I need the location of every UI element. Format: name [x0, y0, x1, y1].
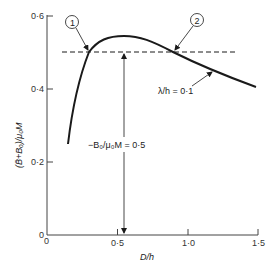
x-tick-label-1.5: 1·5 — [252, 238, 265, 248]
x-tick-label-0.5: 0·5 — [111, 238, 124, 248]
y-axis-title: (B̄+Bₒ)/μ₀M — [14, 122, 24, 168]
circle-2-text: 2 — [195, 16, 200, 26]
chart: 0·6 0·4 0·2 0 0 0·5 1·0 1·5 D/h (B̄+Bₒ)/… — [0, 0, 273, 273]
y-tick-label-0.4: 0·4 — [31, 84, 44, 94]
circled-label-1: 1 — [66, 16, 89, 51]
curve-label-pointer — [192, 72, 212, 86]
y-tick-label-0.2: 0·2 — [31, 157, 44, 167]
x-axis-title: D/h — [140, 252, 154, 262]
x-tick-label-1.0: 1·0 — [182, 238, 195, 248]
y-tick-label-0.6: 0·6 — [31, 11, 44, 21]
dashed-label: −B₀/μ₀M = 0·5 — [88, 140, 145, 150]
x-tick-label-0: 0 — [44, 236, 49, 246]
pointer-arrow-1 — [76, 28, 88, 50]
curve-label: λ/h = 0·1 — [158, 86, 193, 96]
axes — [47, 15, 258, 235]
pointer-arrow-2 — [175, 26, 193, 50]
circle-1-text: 1 — [70, 18, 75, 28]
circled-label-2: 2 — [175, 14, 204, 51]
